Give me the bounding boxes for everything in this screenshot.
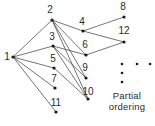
node-label-7: 7 (51, 74, 57, 84)
graph-node[interactable] (50, 18, 53, 21)
graph-node[interactable] (122, 40, 125, 43)
graph-node[interactable] (11, 55, 14, 58)
graph-edge (52, 20, 86, 78)
graph-node[interactable] (53, 86, 56, 89)
graph-node[interactable] (54, 110, 57, 113)
node-label-10: 10 (82, 87, 93, 97)
graph-node[interactable] (52, 66, 55, 69)
graph-node[interactable] (84, 76, 87, 79)
graph-node[interactable] (122, 15, 125, 18)
node-label-2: 2 (47, 5, 53, 15)
graph-edge (13, 57, 56, 112)
graph-edge (13, 57, 54, 68)
graph-node[interactable] (86, 97, 89, 100)
ellipsis-dot (149, 63, 152, 66)
partial-ordering-figure: 123456789101112 Partial ordering (0, 0, 155, 126)
graph-edges (13, 17, 124, 112)
graph-node[interactable] (51, 44, 54, 47)
ellipsis-dot (121, 63, 124, 66)
node-label-6: 6 (82, 40, 88, 50)
node-label-3: 3 (49, 32, 55, 42)
node-label-8: 8 (120, 2, 126, 12)
graph-edge (86, 42, 124, 55)
node-label-9: 9 (82, 63, 88, 73)
ellipsis-dot (121, 72, 124, 75)
graph-node[interactable] (81, 29, 84, 32)
node-label-4: 4 (79, 17, 85, 27)
figure-caption: Partial ordering (109, 90, 145, 112)
node-label-12: 12 (118, 26, 129, 36)
graph-node[interactable] (84, 53, 87, 56)
ellipsis-dot (121, 81, 124, 84)
ellipsis-dots (121, 63, 152, 84)
node-label-11: 11 (51, 98, 61, 108)
node-label-1: 1 (4, 52, 10, 62)
ellipsis-dot (136, 63, 139, 66)
node-label-5: 5 (50, 54, 56, 64)
